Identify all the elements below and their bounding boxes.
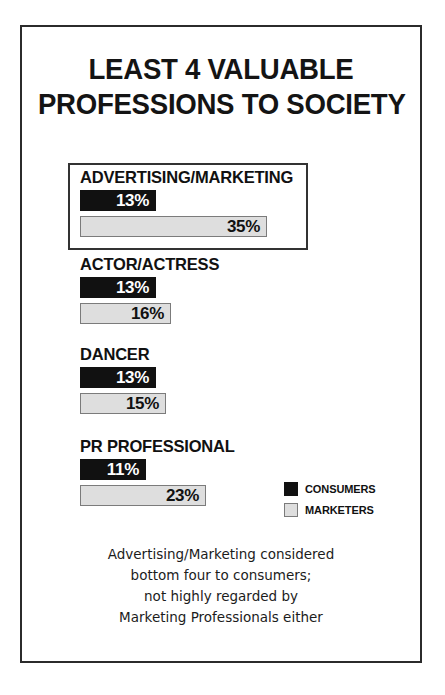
bar-marketers: 23%: [80, 485, 206, 506]
chart-legend: CONSUMERS MARKETERS: [284, 480, 376, 522]
caption-line-2: bottom four to consumers;: [22, 565, 420, 586]
bar-value-label: 13%: [116, 368, 155, 388]
bar-group-label: ACTOR/ACTRESS: [80, 255, 310, 274]
legend-item-consumers: CONSUMERS: [284, 480, 376, 497]
bar-group-label: DANCER: [80, 345, 310, 364]
bar-value-label: 11%: [107, 460, 145, 480]
bar-marketers: 35%: [80, 216, 267, 237]
bar-consumers: 13%: [80, 277, 156, 298]
bar-group: ADVERTISING/MARKETING13%35%: [68, 163, 308, 250]
caption-line-4: Marketing Professionals either: [22, 607, 420, 628]
bar-group-label: PR PROFESSIONAL: [80, 437, 310, 456]
caption-line-3: not highly regarded by: [22, 586, 420, 607]
bar-value-label: 35%: [227, 217, 266, 237]
bar-consumers: 11%: [80, 459, 146, 480]
bar-group-bars: 13%35%: [80, 190, 306, 242]
bar-marketers: 16%: [80, 303, 171, 324]
bar-group-bars: 11%23%: [80, 459, 310, 511]
bar-value-label: 15%: [126, 394, 165, 414]
bar-value-label: 13%: [116, 191, 155, 211]
bar-group: ACTOR/ACTRESS13%16%: [70, 255, 310, 329]
bar-group-bars: 13%16%: [80, 277, 310, 329]
bar-consumers: 13%: [80, 367, 156, 388]
caption-line-1: Advertising/Marketing considered: [22, 544, 420, 565]
bar-value-label: 13%: [116, 278, 155, 298]
bar-value-label: 16%: [131, 304, 170, 324]
legend-label-consumers: CONSUMERS: [305, 483, 376, 495]
legend-swatch-consumers-icon: [284, 482, 298, 496]
bar-marketers: 15%: [80, 393, 166, 414]
poster-caption: Advertising/Marketing considered bottom …: [22, 544, 420, 628]
legend-swatch-marketers-icon: [284, 503, 298, 517]
bar-group: PR PROFESSIONAL11%23%: [70, 437, 310, 511]
bar-group-label: ADVERTISING/MARKETING: [80, 168, 306, 187]
bar-value-label: 23%: [166, 486, 205, 506]
poster-frame: LEAST 4 VALUABLE PROFESSIONS TO SOCIETY …: [20, 25, 422, 663]
bar-consumers: 13%: [80, 190, 156, 211]
legend-label-marketers: MARKETERS: [305, 504, 374, 516]
bar-group-bars: 13%15%: [80, 367, 310, 419]
legend-item-marketers: MARKETERS: [284, 501, 376, 518]
bar-group: DANCER13%15%: [70, 345, 310, 419]
